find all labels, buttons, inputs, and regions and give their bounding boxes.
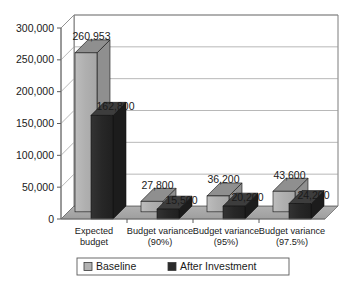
value-label-baseline-1: 27,800 [141,179,173,191]
y-tick-label: 50,000 [22,181,54,193]
bar-after-investment-0 [91,102,126,219]
category-label-sub-3: (97.5%) [276,237,308,247]
bar-front-face [91,115,113,219]
category-label-sub-0: budget [80,237,109,247]
y-tick-label: 250,000 [16,53,54,65]
y-tick-label: 300,000 [16,22,54,34]
bar-front-face [223,206,245,219]
chart-container: 050,000100,000150,000200,000250,000300,0… [0,0,354,289]
legend-swatch [84,263,92,271]
category-label-1: Budget variance [127,226,193,236]
bar-front-face [157,209,179,219]
bar-front-face [289,204,311,219]
category-label-sub-1: (90%) [148,237,173,247]
category-label-2: Budget variance [193,226,259,236]
y-tick-label: 200,000 [16,85,54,97]
y-tick-label: 100,000 [16,149,54,161]
y-tick-label: 0 [48,213,54,225]
y-tick-label: 150,000 [16,117,54,129]
category-label-3: Budget variance [259,226,325,236]
bar-side-face [113,102,126,219]
legend-label: Baseline [96,260,136,272]
category-label-0: Expected [75,226,113,236]
value-label-after-investment-3: 24,200 [297,189,329,201]
value-label-baseline-3: 43,600 [273,169,305,181]
value-label-after-investment-0: 162,800 [97,100,135,112]
value-label-baseline-0: 260,953 [73,30,111,42]
value-label-after-investment-2: 20,200 [231,191,263,203]
value-label-baseline-2: 36,200 [207,173,239,185]
legend-item-after-investment[interactable]: After Investment [168,260,257,272]
y-axis: 050,000100,000150,000200,000250,000300,0… [16,22,61,225]
legend-swatch [168,263,176,271]
value-label-after-investment-1: 15,500 [165,194,197,206]
category-label-sub-2: (95%) [214,237,239,247]
legend-label: After Investment [180,260,257,272]
x-axis: ExpectedbudgetBudget variance(90%)Budget… [61,219,325,247]
bar-chart-3d: 050,000100,000150,000200,000250,000300,0… [0,0,354,289]
chart-legend[interactable]: BaselineAfter Investment [77,258,289,275]
